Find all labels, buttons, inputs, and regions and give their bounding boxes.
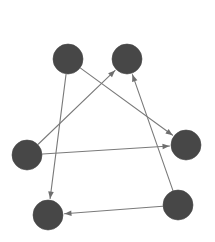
edge-top-left-to-bottom-left [50,74,66,198]
node-bottom-left[interactable] [33,200,63,230]
edge-layer [38,68,173,216]
node-top-left[interactable] [53,44,83,74]
edge-left-to-right [42,146,169,154]
edge-top-left-to-right [81,68,173,135]
edge-top-left-to-bottom-left-arrowhead [48,191,54,198]
graph-diagram [0,0,215,242]
edge-top-left-to-right-arrowhead [165,129,172,135]
edge-left-to-top-right [38,70,115,144]
graph-canvas [0,0,215,242]
node-layer [12,44,201,230]
edge-left-to-right-arrowhead [162,144,169,150]
node-left[interactable] [12,140,42,170]
node-right[interactable] [171,130,201,160]
edge-bottom-right-to-bottom-left [64,206,162,214]
node-bottom-right[interactable] [163,190,193,220]
node-top-right[interactable] [112,44,142,74]
edge-bottom-right-to-top-right-arrowhead [132,75,137,83]
